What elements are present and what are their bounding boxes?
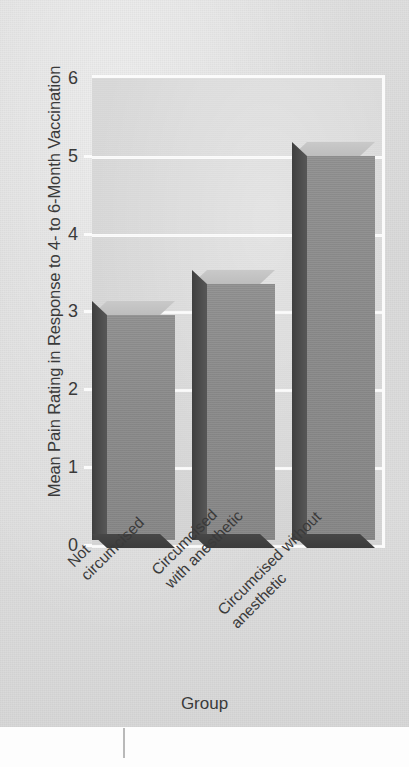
y-tick-label-6: 6 <box>52 69 78 87</box>
y-tick-label-3: 3 <box>52 302 78 320</box>
y-tick-label-5: 5 <box>52 147 78 165</box>
y-tick-label-1: 1 <box>52 458 78 476</box>
bar-2-side-face <box>192 270 207 540</box>
bar-1-side-face <box>92 301 107 540</box>
y-tick-label-4: 4 <box>52 225 78 243</box>
chart-page: Mean Pain Rating in Response to 4- to 6-… <box>0 0 409 767</box>
bar-3-front-face <box>307 156 375 540</box>
page-bottom-margin <box>0 727 409 767</box>
bar-series <box>92 75 385 548</box>
bar-3-side-face <box>292 142 307 540</box>
scan-artifact-tick <box>123 728 125 758</box>
y-tick-label-2: 2 <box>52 380 78 398</box>
x-axis-title: Group <box>0 694 409 714</box>
x-axis-category-labels: Not circumcised Circumcised with anesthe… <box>0 548 409 698</box>
